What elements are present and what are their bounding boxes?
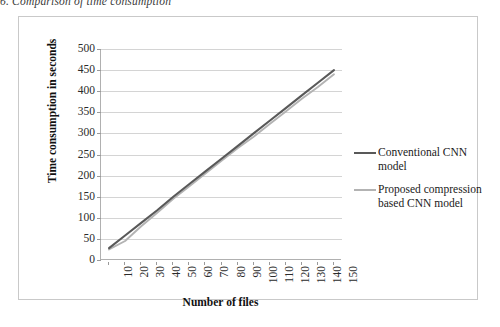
series-lines xyxy=(101,49,342,260)
plot-area xyxy=(100,49,341,260)
x-axis-tick-labels: 102030405060708090100110120130140150 xyxy=(100,262,341,294)
y-axis-tick-label: 500 xyxy=(61,43,95,55)
y-axis-tick-label: 100 xyxy=(61,212,95,224)
x-axis-tick-label: 140 xyxy=(332,266,344,296)
figure-caption: 6. Comparison of time consumption xyxy=(0,0,330,11)
x-axis-tick-label: 10 xyxy=(123,266,135,296)
legend-entry[interactable]: Conventional CNN model xyxy=(354,145,484,174)
y-axis-tick-label: 0 xyxy=(61,254,95,266)
y-axis-tick-label: 50 xyxy=(61,233,95,245)
legend-color-swatch xyxy=(354,152,376,154)
x-axis-tick-label: 40 xyxy=(171,266,183,296)
y-axis-tick-labels: 050100150200250300350400450500 xyxy=(59,49,95,260)
x-axis-tick xyxy=(140,262,141,265)
x-axis-tick xyxy=(285,262,286,265)
x-axis-tick xyxy=(253,262,254,265)
legend-label: Conventional CNN model xyxy=(378,145,484,174)
y-axis-tick-label: 150 xyxy=(61,191,95,203)
y-axis-tick-label: 450 xyxy=(61,64,95,76)
x-axis-tick-label: 60 xyxy=(203,266,215,296)
y-axis-tick-label: 350 xyxy=(61,106,95,118)
x-axis-tick xyxy=(333,262,334,265)
legend-label: Proposed compression based CNN model xyxy=(378,182,484,211)
x-axis-tick-label: 130 xyxy=(316,266,328,296)
x-axis-tick-label: 80 xyxy=(236,266,248,296)
x-axis-tick-label: 70 xyxy=(219,266,231,296)
x-axis-tick-label: 150 xyxy=(348,266,360,296)
x-axis-tick xyxy=(156,262,157,265)
figure-frame: Time consumption in seconds 050100150200… xyxy=(18,16,478,300)
x-axis-tick-label: 50 xyxy=(187,266,199,296)
legend-entry[interactable]: Proposed compression based CNN model xyxy=(354,182,484,211)
x-axis-tick xyxy=(221,262,222,265)
y-axis-title: Time consumption in seconds xyxy=(46,16,58,206)
x-axis-tick-label: 20 xyxy=(139,266,151,296)
y-axis-tick-label: 200 xyxy=(61,170,95,182)
y-axis-tick-label: 300 xyxy=(61,127,95,139)
chart-legend: Conventional CNN modelProposed compressi… xyxy=(354,145,484,219)
x-axis-tick-label: 90 xyxy=(252,266,264,296)
x-axis-tick xyxy=(124,262,125,265)
x-axis-tick xyxy=(172,262,173,265)
x-axis-tick xyxy=(188,262,189,265)
x-axis-tick xyxy=(204,262,205,265)
x-axis-tick xyxy=(301,262,302,265)
y-axis-tick-label: 250 xyxy=(61,149,95,161)
x-axis-tick-label: 30 xyxy=(155,266,167,296)
x-axis-tick xyxy=(317,262,318,265)
series-line xyxy=(109,74,334,249)
legend-color-swatch xyxy=(354,189,376,191)
x-axis-tick-label: 100 xyxy=(268,266,280,296)
x-axis-tick xyxy=(108,262,109,265)
series-line xyxy=(109,70,334,248)
y-axis-tick-label: 400 xyxy=(61,85,95,97)
x-axis-tick-label: 110 xyxy=(284,266,296,296)
x-axis-title: Number of files xyxy=(100,296,341,308)
x-axis-tick xyxy=(269,262,270,265)
x-axis-tick xyxy=(237,262,238,265)
y-axis-tick xyxy=(97,260,101,261)
x-axis-tick-label: 120 xyxy=(300,266,312,296)
